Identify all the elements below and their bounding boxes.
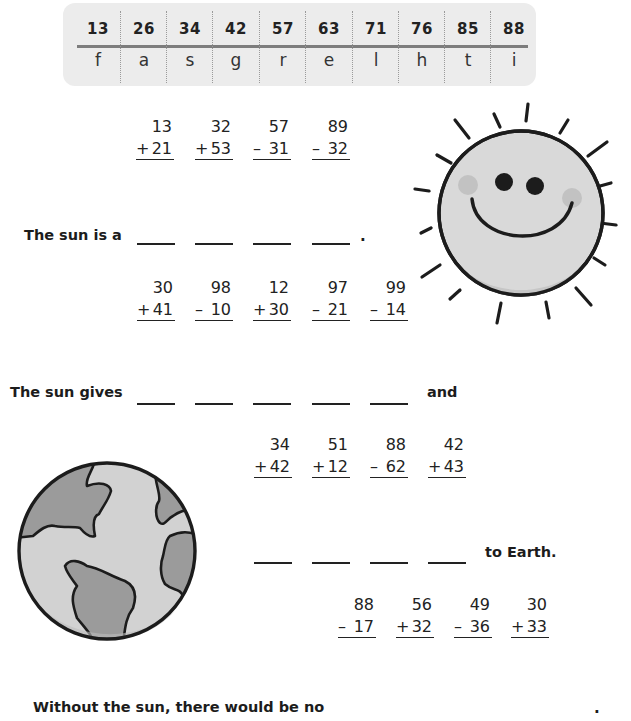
smiling-sun-icon bbox=[410, 95, 631, 340]
operator-sign: + bbox=[137, 299, 150, 320]
operator-sign: + bbox=[254, 456, 267, 477]
math-problem: 30 +33 bbox=[511, 594, 549, 638]
key-letter: i bbox=[512, 43, 517, 75]
operator-sign: + bbox=[136, 138, 149, 159]
problem-top-number: 30 bbox=[511, 594, 549, 616]
sentence-4-period: . bbox=[594, 699, 600, 717]
key-number: 63 bbox=[318, 11, 340, 43]
answer-blank[interactable] bbox=[312, 562, 350, 564]
key-number: 71 bbox=[365, 11, 387, 43]
problem-top-number: 32 bbox=[195, 116, 233, 138]
answer-blank[interactable] bbox=[370, 562, 408, 564]
math-problem: 89 –32 bbox=[312, 116, 350, 160]
problem-top-number: 97 bbox=[312, 277, 350, 299]
key-column: 26 a bbox=[121, 11, 167, 81]
key-number: 57 bbox=[272, 11, 294, 43]
key-number: 76 bbox=[411, 11, 433, 43]
problem-bottom-number: 41 bbox=[153, 299, 173, 320]
math-problem: 99 –14 bbox=[370, 277, 408, 321]
answer-blank[interactable] bbox=[428, 562, 466, 564]
answer-blank[interactable] bbox=[195, 243, 233, 245]
sentence-2-prefix: The sun gives bbox=[10, 384, 123, 400]
problem-bottom-number: 21 bbox=[152, 138, 172, 159]
operator-sign: – bbox=[195, 299, 203, 320]
answer-blank[interactable] bbox=[312, 403, 350, 405]
key-number: 42 bbox=[225, 11, 247, 43]
answer-blank[interactable] bbox=[137, 403, 175, 405]
letter-key-table: 13 f 26 a 34 s 42 g 57 r 63 e 71 l 76 h … bbox=[63, 3, 536, 86]
answer-blank[interactable] bbox=[195, 403, 233, 405]
math-problem: 30 +41 bbox=[137, 277, 175, 321]
sentence-1-prefix: The sun is a bbox=[24, 227, 122, 243]
math-problem: 34 +42 bbox=[254, 434, 292, 478]
key-letter: f bbox=[95, 43, 101, 75]
math-problem: 88 –62 bbox=[370, 434, 408, 478]
problem-bottom-number: 14 bbox=[386, 299, 406, 320]
key-column: 85 t bbox=[445, 11, 491, 81]
key-letter: e bbox=[324, 43, 334, 75]
operator-sign: + bbox=[396, 616, 409, 637]
operator-sign: – bbox=[253, 138, 261, 159]
answer-blank[interactable] bbox=[254, 562, 292, 564]
problem-bottom-number: 32 bbox=[412, 616, 432, 637]
problem-top-number: 42 bbox=[428, 434, 466, 456]
problem-top-number: 57 bbox=[253, 116, 291, 138]
key-letter: g bbox=[231, 43, 242, 75]
problem-bottom-number: 33 bbox=[527, 616, 547, 637]
math-problem: 57 –31 bbox=[253, 116, 291, 160]
operator-sign: + bbox=[428, 456, 441, 477]
math-problem: 97 –21 bbox=[312, 277, 350, 321]
answer-blank[interactable] bbox=[312, 243, 350, 245]
problem-top-number: 34 bbox=[254, 434, 292, 456]
math-problem: 13 +21 bbox=[136, 116, 174, 160]
key-number: 85 bbox=[457, 11, 479, 43]
answer-blank[interactable] bbox=[253, 243, 291, 245]
operator-sign: – bbox=[454, 616, 462, 637]
operator-sign: – bbox=[312, 138, 320, 159]
problem-top-number: 12 bbox=[253, 277, 291, 299]
sentence-2-suffix: and bbox=[427, 384, 458, 400]
problem-top-number: 88 bbox=[338, 594, 376, 616]
sentence-3-suffix: to Earth. bbox=[485, 544, 557, 560]
key-column: 34 s bbox=[167, 11, 213, 81]
math-problem: 42 +43 bbox=[428, 434, 466, 478]
problem-bottom-number: 62 bbox=[386, 456, 406, 477]
answer-blank[interactable] bbox=[253, 403, 291, 405]
problem-bottom-number: 43 bbox=[444, 456, 464, 477]
answer-blank[interactable] bbox=[137, 243, 175, 245]
problem-top-number: 99 bbox=[370, 277, 408, 299]
key-column: 63 e bbox=[306, 11, 352, 81]
math-problem: 88 –17 bbox=[338, 594, 376, 638]
operator-sign: + bbox=[511, 616, 524, 637]
key-number: 34 bbox=[179, 11, 201, 43]
problem-bottom-number: 36 bbox=[470, 616, 490, 637]
problem-bottom-number: 32 bbox=[328, 138, 348, 159]
math-problem: 32 +53 bbox=[195, 116, 233, 160]
math-problem: 12 +30 bbox=[253, 277, 291, 321]
key-number: 88 bbox=[503, 11, 525, 43]
operator-sign: – bbox=[370, 299, 378, 320]
problem-bottom-number: 30 bbox=[269, 299, 289, 320]
math-problem: 98 –10 bbox=[195, 277, 233, 321]
key-column: 42 g bbox=[213, 11, 259, 81]
problem-top-number: 30 bbox=[137, 277, 175, 299]
problem-top-number: 89 bbox=[312, 116, 350, 138]
math-problem: 56 +32 bbox=[396, 594, 434, 638]
problem-top-number: 49 bbox=[454, 594, 492, 616]
key-letter: r bbox=[280, 43, 287, 75]
key-letter: h bbox=[417, 43, 428, 75]
key-number: 26 bbox=[133, 11, 155, 43]
key-number: 13 bbox=[87, 11, 109, 43]
problem-bottom-number: 53 bbox=[211, 138, 231, 159]
key-column: 88 i bbox=[491, 11, 537, 81]
key-column: 71 l bbox=[353, 11, 399, 81]
math-problem: 49 –36 bbox=[454, 594, 492, 638]
problem-top-number: 98 bbox=[195, 277, 233, 299]
problem-bottom-number: 21 bbox=[328, 299, 348, 320]
problem-top-number: 13 bbox=[136, 116, 174, 138]
key-letter: a bbox=[139, 43, 149, 75]
key-column: 57 r bbox=[260, 11, 306, 81]
sentence-1-period: . bbox=[360, 227, 366, 245]
problem-top-number: 56 bbox=[396, 594, 434, 616]
answer-blank[interactable] bbox=[370, 403, 408, 405]
